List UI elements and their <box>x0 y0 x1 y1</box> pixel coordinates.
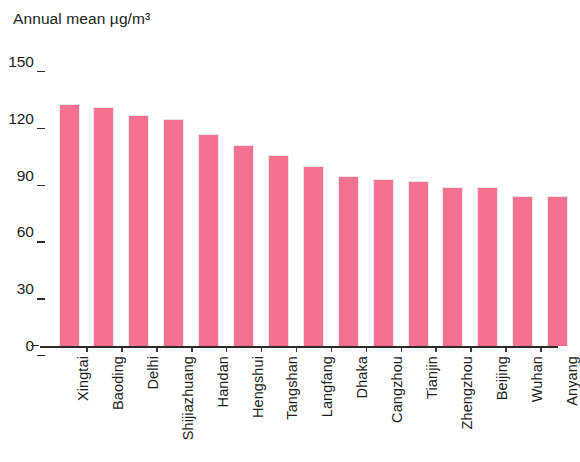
y-axis-tick-label: 30 <box>17 280 34 298</box>
x-axis-minor-tick <box>505 348 506 352</box>
bar <box>198 134 219 346</box>
y-axis-tick-120: 120 <box>8 110 46 128</box>
y-axis-tick-60: 60 <box>17 223 46 241</box>
bar <box>59 104 80 346</box>
x-axis-minor-tick <box>191 348 192 352</box>
bar <box>93 107 114 346</box>
bar <box>477 187 498 346</box>
plot-area <box>46 50 558 350</box>
x-axis-minor-tick <box>121 348 122 352</box>
y-axis-tick-30: 30 <box>17 280 46 298</box>
x-axis-label: Tianjin <box>424 356 440 462</box>
y-axis-tick-label: 150 <box>8 53 34 71</box>
x-axis-label: Wuhan <box>529 356 545 462</box>
bar <box>163 119 184 346</box>
x-axis-labels: XingtaiBaodingDelhiShijiazhuangHandanHen… <box>46 352 558 462</box>
bar <box>547 196 568 346</box>
bar <box>268 155 289 346</box>
y-axis-tick-label: 90 <box>17 167 34 185</box>
x-axis-label: Tangshan <box>284 356 300 462</box>
x-axis-minor-tick <box>366 348 367 352</box>
bar <box>338 176 359 346</box>
bar <box>303 166 324 346</box>
x-axis-minor-tick <box>435 348 436 352</box>
y-axis-tick-90: 90 <box>17 167 46 185</box>
bar <box>233 145 254 346</box>
x-axis-line <box>40 346 558 348</box>
x-axis-label: Handan <box>215 356 231 462</box>
x-axis-label: Delhi <box>145 356 161 462</box>
x-axis-minor-tick <box>296 348 297 352</box>
bar <box>128 115 149 346</box>
y-axis: 1501209060300 <box>0 0 46 462</box>
bar <box>373 179 394 346</box>
x-axis-minor-tick <box>540 348 541 352</box>
x-axis-minor-tick <box>470 348 471 352</box>
x-axis-label: Shijiazhuang <box>180 356 196 462</box>
x-axis-origin-tick <box>31 345 39 346</box>
x-axis-label: Hengshui <box>250 356 266 462</box>
y-axis-tick-label: 60 <box>17 223 34 241</box>
x-axis-minor-tick <box>86 348 87 352</box>
x-axis-label: Langfang <box>319 356 335 462</box>
bar <box>408 181 429 346</box>
x-axis-label: Anyang <box>564 356 580 462</box>
x-axis-label: Beijing <box>494 356 510 462</box>
x-axis-minor-tick <box>401 348 402 352</box>
x-axis-label: Zhengzhou <box>459 356 475 462</box>
x-axis-label: Dhaka <box>354 356 370 462</box>
bars-layer <box>46 50 558 350</box>
y-axis-tick-150: 150 <box>8 53 46 71</box>
x-axis-minor-tick <box>331 348 332 352</box>
bar <box>512 196 533 346</box>
x-axis-minor-tick <box>226 348 227 352</box>
x-axis-label: Baoding <box>110 356 126 462</box>
x-axis-minor-tick <box>261 348 262 352</box>
bar <box>442 187 463 346</box>
x-axis-label: Xingtai <box>75 356 91 462</box>
x-axis-label: Cangzhou <box>389 356 405 462</box>
y-axis-tick-label: 120 <box>8 110 34 128</box>
x-axis-minor-tick <box>156 348 157 352</box>
